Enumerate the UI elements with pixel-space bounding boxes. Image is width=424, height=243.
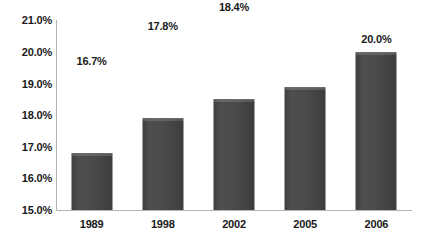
bar[interactable] [285,87,326,210]
x-axis-category-label: 2002 [194,218,274,230]
y-axis-tick-label: 20.0% [0,47,52,58]
y-axis-tick-label: 16.0% [0,173,52,184]
y-axis-tick-label: 17.0% [0,142,52,153]
bar-value-label: 16.7% [76,55,106,67]
x-axis-category-label: 2005 [265,218,345,230]
bar-slot: 20.0% [341,20,412,210]
bar[interactable] [213,99,254,210]
plot-area: 16.7% 17.8% 18.4% 18.8% 20.0% [56,20,412,210]
bar[interactable] [142,118,183,210]
y-axis-tick-label: 19.0% [0,79,52,90]
y-axis-tick-label: 15.0% [0,205,52,216]
bar-slot: 16.7% [56,20,127,210]
bar-slot: 18.8% [270,20,341,210]
bar[interactable] [71,153,112,210]
bar-value-label: 17.8% [148,20,178,32]
y-axis-tick-label: 21.0% [0,15,52,26]
x-axis-category-label: 1998 [123,218,203,230]
bar-value-label: 18.4% [219,1,249,13]
bar-slot: 17.8% [127,20,198,210]
x-axis-category-label: 2006 [336,218,416,230]
x-axis-line [56,210,412,211]
x-axis-category-label: 1989 [52,218,132,230]
bar[interactable] [356,52,397,210]
bar-value-label: 20.0% [361,33,391,45]
bar-chart: 21.0% 20.0% 19.0% 18.0% 17.0% 16.0% 15.0… [0,0,424,243]
bar-slot: 18.4% [198,20,269,210]
y-axis-tick-label: 18.0% [0,110,52,121]
